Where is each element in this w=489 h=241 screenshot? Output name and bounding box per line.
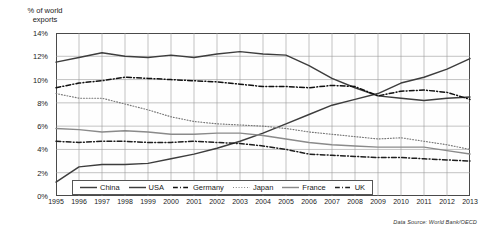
x-axis-tick-labels: 1995199619971998199920002001200220032004… xyxy=(56,198,470,212)
legend-swatch-germany-icon xyxy=(173,184,190,191)
legend-item-uk[interactable]: UK xyxy=(335,183,365,192)
y-axis-title: % of world exports xyxy=(14,6,76,24)
x-tick-2000: 2000 xyxy=(163,198,179,205)
legend-label: Japan xyxy=(253,183,273,192)
x-tick-2002: 2002 xyxy=(209,198,225,205)
x-tick-2006: 2006 xyxy=(301,198,317,205)
x-tick-2008: 2008 xyxy=(347,198,363,205)
x-tick-1996: 1996 xyxy=(71,198,87,205)
legend-swatch-china-icon xyxy=(80,184,97,191)
x-tick-2005: 2005 xyxy=(278,198,294,205)
legend-label: France xyxy=(302,183,325,192)
legend-item-france[interactable]: France xyxy=(282,183,325,192)
y-tick-14: 14% xyxy=(33,29,48,38)
x-tick-2004: 2004 xyxy=(255,198,271,205)
x-tick-2012: 2012 xyxy=(439,198,455,205)
y-tick-6: 6% xyxy=(37,122,48,131)
legend-label: UK xyxy=(355,183,365,192)
x-tick-2007: 2007 xyxy=(324,198,340,205)
legend-item-china[interactable]: China xyxy=(80,183,120,192)
x-tick-2010: 2010 xyxy=(393,198,409,205)
legend-item-japan[interactable]: Japan xyxy=(233,183,273,192)
x-tick-2013: 2013 xyxy=(462,198,478,205)
x-tick-2003: 2003 xyxy=(232,198,248,205)
source-note: Data Source: World Bank/OECD xyxy=(393,219,477,225)
legend-label: China xyxy=(100,183,120,192)
y-tick-8: 8% xyxy=(37,98,48,107)
x-tick-2009: 2009 xyxy=(370,198,386,205)
y-tick-0: 0% xyxy=(37,192,48,201)
series-line-germany xyxy=(56,77,470,99)
legend-swatch-japan-icon xyxy=(233,184,250,191)
legend-item-usa[interactable]: USA xyxy=(129,183,164,192)
x-tick-1999: 1999 xyxy=(140,198,156,205)
y-axis-tick-labels: 0%2%4%6%8%10%12%14% xyxy=(0,33,52,196)
legend-item-germany[interactable]: Germany xyxy=(173,183,224,192)
series-lines xyxy=(56,33,470,196)
x-tick-1995: 1995 xyxy=(48,198,64,205)
series-line-usa xyxy=(56,52,470,101)
legend-swatch-france-icon xyxy=(282,184,299,191)
legend-swatch-usa-icon xyxy=(129,184,146,191)
y-tick-10: 10% xyxy=(33,75,48,84)
legend-swatch-uk-icon xyxy=(335,184,352,191)
x-tick-1997: 1997 xyxy=(94,198,110,205)
chart-legend: ChinaUSAGermanyJapanFranceUK xyxy=(72,180,373,195)
plot-area xyxy=(56,33,470,196)
series-line-china xyxy=(56,59,470,182)
legend-label: Germany xyxy=(193,183,224,192)
x-tick-2011: 2011 xyxy=(416,198,431,205)
y-tick-12: 12% xyxy=(33,52,48,61)
y-tick-4: 4% xyxy=(37,145,48,154)
x-tick-2001: 2001 xyxy=(186,198,202,205)
export-share-line-chart: % of world exports 0%2%4%6%8%10%12%14% 1… xyxy=(0,0,489,241)
x-tick-1998: 1998 xyxy=(117,198,133,205)
legend-label: USA xyxy=(149,183,164,192)
y-tick-2: 2% xyxy=(37,168,48,177)
series-line-uk xyxy=(56,141,470,161)
